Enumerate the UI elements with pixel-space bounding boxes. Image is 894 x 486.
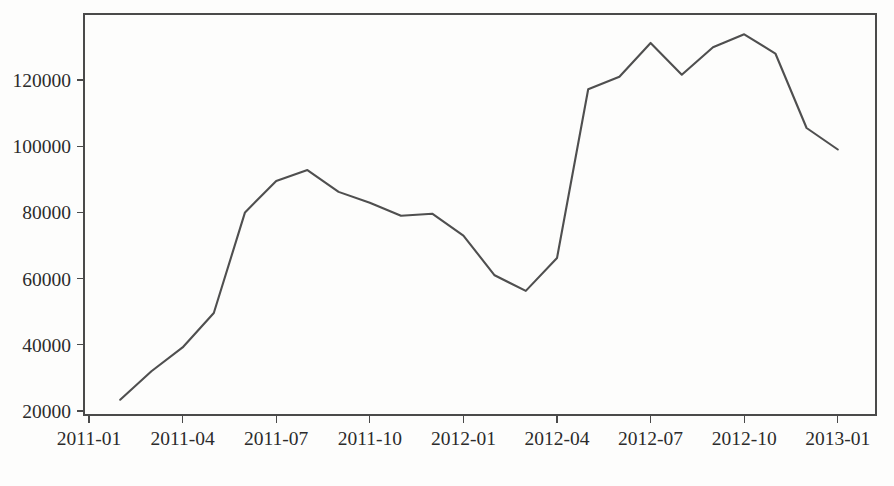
y-tick-label: 20000 — [22, 401, 71, 422]
x-tick-label: 2012-01 — [431, 428, 496, 449]
x-tick-label: 2011-10 — [338, 428, 402, 449]
x-tick-label: 2012-10 — [712, 428, 777, 449]
plot-frame — [84, 14, 876, 415]
y-tick-label: 40000 — [22, 335, 71, 356]
x-tick-label: 2011-01 — [57, 428, 121, 449]
axis-frame — [84, 14, 876, 415]
data-series-group — [120, 34, 838, 399]
y-axis-tick-labels: 20000400006000080000100000120000 — [13, 70, 72, 422]
x-tick-label: 2012-07 — [618, 428, 683, 449]
x-tick-label: 2012-04 — [525, 428, 590, 449]
x-tick-label: 2013-01 — [805, 428, 870, 449]
y-axis-ticks — [77, 80, 84, 411]
x-axis-tick-labels: 2011-012011-042011-072011-102012-012012-… — [57, 428, 870, 449]
y-tick-label: 120000 — [13, 70, 72, 91]
y-tick-label: 100000 — [13, 136, 72, 157]
x-tick-label: 2011-07 — [244, 428, 309, 449]
y-tick-label: 80000 — [22, 202, 71, 223]
line-chart: 20000400006000080000100000120000 2011-01… — [0, 0, 894, 486]
x-axis-ticks — [89, 415, 838, 423]
y-tick-label: 60000 — [22, 269, 71, 290]
data-line-series-value — [120, 34, 838, 399]
x-tick-label: 2011-04 — [150, 428, 215, 449]
chart-canvas: 20000400006000080000100000120000 2011-01… — [0, 0, 894, 486]
